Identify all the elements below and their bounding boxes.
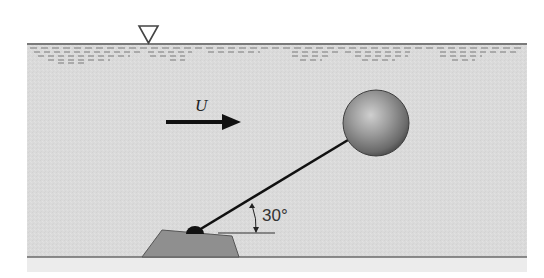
water-region xyxy=(27,44,527,257)
seabed-strip xyxy=(27,257,527,272)
buoyant-sphere xyxy=(343,90,409,156)
angle-label: 30° xyxy=(262,206,288,225)
flow-velocity-label: U xyxy=(195,96,209,115)
free-surface-symbol-icon xyxy=(139,26,158,43)
diagram-canvas: U 30° xyxy=(0,0,544,278)
